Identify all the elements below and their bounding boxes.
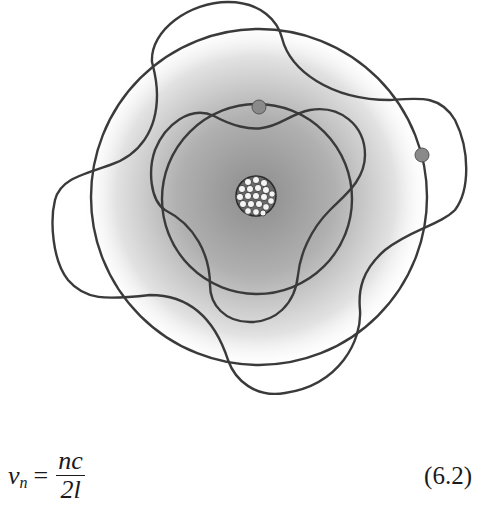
electron-inner	[252, 100, 266, 114]
equation: ν n = nc 2l	[8, 448, 85, 503]
denominator: 2l	[58, 476, 82, 503]
bohr-atom-diagram	[0, 0, 498, 420]
equals-sign: =	[34, 461, 49, 491]
nu-symbol: ν	[8, 461, 20, 491]
nucleus	[236, 176, 276, 216]
equation-row: ν n = nc 2l (6.2)	[0, 440, 498, 510]
subscript-n: n	[20, 474, 28, 492]
fraction: nc 2l	[56, 448, 85, 503]
numerator: nc	[56, 448, 85, 476]
electron-outer	[415, 148, 429, 162]
equation-number: (6.2)	[424, 462, 472, 490]
atom-figure	[0, 0, 498, 420]
